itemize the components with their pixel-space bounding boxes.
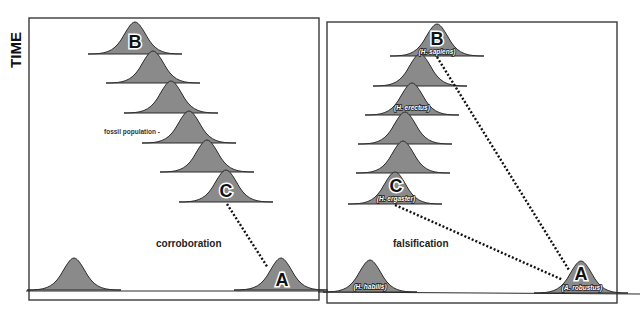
label-c-left: C	[220, 181, 233, 201]
fossil-population-annotation: fossil population -	[104, 128, 160, 136]
corroboration-link-c-to-a	[227, 204, 268, 268]
left-panel-corroboration: B C A fossil population - corroboration	[26, 18, 328, 300]
population-stack-5	[160, 140, 254, 172]
phylogeny-test-diagram: TIME B C	[0, 0, 642, 314]
label-b-left: B	[129, 32, 142, 52]
falsification-caption: falsification	[393, 238, 449, 249]
taxon-h-erectus: (H. erectus)	[394, 104, 430, 112]
label-a-right: A	[575, 264, 588, 284]
population-stack-2	[106, 51, 200, 83]
population-stack-3	[124, 81, 218, 113]
population-stack-4	[142, 111, 236, 143]
time-axis-label: TIME	[7, 32, 24, 68]
falsification-link-b-to-a	[437, 57, 569, 270]
population-lone	[27, 258, 121, 290]
label-c-right: C	[390, 176, 403, 196]
taxon-a-robustus: (A. robustus)	[562, 284, 602, 292]
right-panel-falsification: B (H. sapiens) (H. erectus) C (H. ergast…	[318, 22, 640, 303]
taxon-h-habilis: (H. habilis)	[353, 283, 386, 291]
corroboration-caption: corroboration	[156, 238, 222, 249]
population-stack-5-right	[356, 141, 450, 173]
label-a-left: A	[276, 270, 289, 290]
taxon-h-sapiens: (H. sapiens)	[419, 48, 456, 56]
taxon-h-ergaster: (H. ergaster)	[377, 195, 415, 203]
label-b-right: B	[431, 29, 444, 49]
population-stack-4-right	[358, 112, 452, 144]
left-panel-frame	[29, 18, 319, 300]
